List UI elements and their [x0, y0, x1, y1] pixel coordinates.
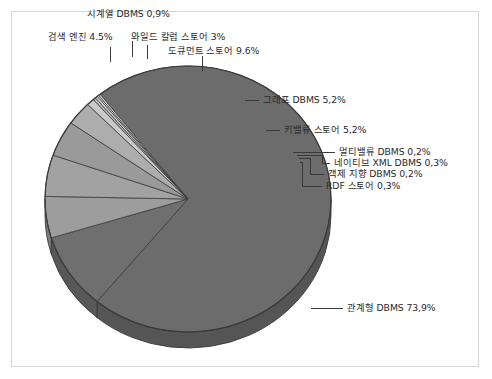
label-document-store: 도큐먼트 스토어 9.6%: [168, 45, 259, 56]
label-search-engine: 검색 엔진 4.5%: [48, 31, 113, 42]
label-object-oriented: 객제 지향 DBMS 0,2%: [328, 168, 422, 179]
label-graph-dbms: 그래프 DBMS 5,2%: [263, 94, 346, 105]
pie-chart-svg: [0, 0, 492, 379]
chart-figure: 시계열 DBMS 0,9% 검색 엔진 4.5% 와일드 칼럼 스토어 3% 도…: [0, 0, 492, 379]
label-wide-column: 와일드 칼럼 스토어 3%: [131, 31, 225, 42]
pie-top-surface: [45, 66, 331, 332]
label-native-xml: 네이티브 XML DBMS 0,3%: [334, 157, 448, 168]
label-relational: 관계형 DBMS 73,9%: [347, 302, 436, 313]
label-multivalue: 멀티밸류 DBMS 0,2%: [339, 146, 431, 157]
label-time-series: 시계열 DBMS 0,9%: [87, 8, 170, 19]
label-key-value: 키밸류 스토어 5,2%: [284, 124, 366, 135]
label-rdf-store: RDF 스토어 0,3%: [326, 180, 400, 191]
